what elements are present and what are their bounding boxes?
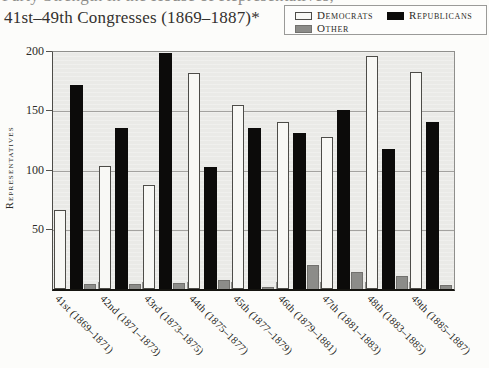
bar-democrats-48th bbox=[366, 56, 378, 289]
bar-democrats-46th bbox=[277, 122, 289, 289]
bar-republicans-46th bbox=[293, 133, 306, 289]
y-tick-mark bbox=[46, 51, 52, 52]
bar-democrats-45th bbox=[232, 105, 244, 289]
bar-other-41st bbox=[84, 284, 96, 289]
bar-other-43rd bbox=[173, 283, 185, 289]
bar-other-44th bbox=[218, 280, 230, 289]
legend-item-other: Other bbox=[295, 22, 349, 35]
y-tick-label-100: 100 bbox=[12, 164, 44, 176]
legend: Democrats Republicans Other bbox=[284, 5, 487, 35]
bar-democrats-41st bbox=[54, 210, 66, 289]
bar-republicans-41st bbox=[70, 85, 83, 289]
chart-title: 41st–49th Congresses (1869–1887)* bbox=[4, 8, 260, 28]
bar-democrats-47th bbox=[321, 137, 333, 289]
bar-democrats-42nd bbox=[99, 166, 111, 289]
bar-republicans-48th bbox=[382, 149, 395, 289]
y-tick-mark bbox=[46, 110, 52, 111]
bar-other-49th bbox=[440, 285, 452, 289]
bar-democrats-43rd bbox=[143, 185, 155, 289]
y-tick-label-50: 50 bbox=[12, 223, 44, 235]
y-tick-mark bbox=[46, 170, 52, 171]
legend-label-republicans: Republicans bbox=[409, 10, 472, 21]
democrats-swatch-icon bbox=[295, 12, 312, 20]
gridline-150 bbox=[53, 111, 454, 112]
bar-other-48th bbox=[396, 276, 408, 289]
plot-area bbox=[52, 51, 455, 291]
bar-republicans-44th bbox=[204, 167, 217, 289]
bar-republicans-47th bbox=[337, 110, 350, 289]
legend-item-republicans: Republicans bbox=[387, 9, 472, 22]
bar-democrats-49th bbox=[410, 72, 422, 289]
y-tick-label-200: 200 bbox=[12, 45, 44, 57]
bar-republicans-45th bbox=[248, 128, 261, 289]
bar-republicans-49th bbox=[426, 122, 439, 289]
legend-label-democrats: Democrats bbox=[317, 10, 373, 21]
other-swatch-icon bbox=[295, 25, 312, 33]
y-tick-mark bbox=[46, 229, 52, 230]
y-tick-label-150: 150 bbox=[12, 104, 44, 116]
legend-item-democrats: Democrats bbox=[295, 9, 373, 22]
bar-republicans-42nd bbox=[115, 128, 128, 289]
bar-other-42nd bbox=[129, 284, 141, 289]
bar-other-45th bbox=[262, 287, 274, 289]
republicans-swatch-icon bbox=[387, 12, 404, 20]
bar-republicans-43rd bbox=[159, 53, 172, 289]
bar-other-47th bbox=[351, 272, 363, 289]
bar-other-46th bbox=[307, 265, 319, 289]
bar-democrats-44th bbox=[188, 73, 200, 289]
legend-label-other: Other bbox=[317, 23, 349, 34]
